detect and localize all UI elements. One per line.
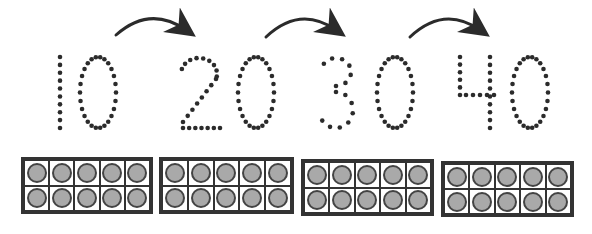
ten-frame-cell xyxy=(495,164,520,189)
counter-circle-icon xyxy=(472,167,492,187)
ten-frame-cell xyxy=(304,188,329,214)
counter-circle-icon xyxy=(242,163,262,183)
ten-frame-20 xyxy=(159,157,294,214)
ten-frame-cell xyxy=(495,189,520,214)
ten-frame-cell xyxy=(188,186,214,212)
ten-frame-10 xyxy=(21,157,153,214)
counter-circle-icon xyxy=(523,167,543,187)
ten-frame-cell xyxy=(125,186,150,212)
counter-circle-icon xyxy=(307,165,327,185)
counter-circle-icon xyxy=(548,167,568,187)
ten-frame-cell xyxy=(355,188,380,214)
ten-frame-30 xyxy=(301,159,434,216)
ten-frame-cell xyxy=(100,186,125,212)
counter-circle-icon xyxy=(357,165,377,185)
counter-circle-icon xyxy=(127,188,147,208)
ten-frame-cell xyxy=(74,160,99,186)
ten-frame-cell xyxy=(380,162,405,188)
ten-frame-cell xyxy=(444,164,469,189)
ten-frame-cell xyxy=(49,186,74,212)
counter-circle-icon xyxy=(191,188,211,208)
ten-frame-cell xyxy=(406,162,431,188)
ten-frame-cell xyxy=(546,164,571,189)
ten-frame-cell xyxy=(406,188,431,214)
counter-circle-icon xyxy=(165,188,185,208)
arrow-30-to-40 xyxy=(410,19,480,37)
ten-frame-cell xyxy=(125,160,150,186)
counter-circle-icon xyxy=(332,165,352,185)
counter-circle-icon xyxy=(307,190,327,210)
ten-frame-cell xyxy=(304,162,329,188)
ten-frame-cell xyxy=(520,164,545,189)
arrow-20-to-30 xyxy=(266,19,336,37)
ten-frame-cell xyxy=(546,189,571,214)
ten-frame-cell xyxy=(469,164,494,189)
ten-frame-cell xyxy=(469,189,494,214)
counter-circle-icon xyxy=(52,188,72,208)
counter-circle-icon xyxy=(27,188,47,208)
ten-frame-40 xyxy=(441,161,574,217)
counter-circle-icon xyxy=(216,188,236,208)
skip-arrows xyxy=(116,19,480,37)
counter-circle-icon xyxy=(102,188,122,208)
counter-circle-icon xyxy=(408,190,428,210)
counter-circle-icon xyxy=(447,167,467,187)
counter-circle-icon xyxy=(523,192,543,212)
ten-frame-cell xyxy=(329,188,354,214)
ten-frame-cell xyxy=(520,189,545,214)
counter-circle-icon xyxy=(127,163,147,183)
counter-circle-icon xyxy=(408,165,428,185)
counter-circle-icon xyxy=(191,163,211,183)
dotted-numbers xyxy=(58,55,551,131)
ten-frame-cell xyxy=(162,160,188,186)
ten-frame-cell xyxy=(355,162,380,188)
counter-circle-icon xyxy=(242,188,262,208)
ten-frame-cell xyxy=(74,186,99,212)
counter-circle-icon xyxy=(357,190,377,210)
counter-circle-icon xyxy=(77,188,97,208)
counter-circle-icon xyxy=(383,190,403,210)
counter-circle-icon xyxy=(497,167,517,187)
counter-circle-icon xyxy=(447,192,467,212)
counter-circle-icon xyxy=(268,163,288,183)
counter-circle-icon xyxy=(77,163,97,183)
counter-circle-icon xyxy=(472,192,492,212)
ten-frame-cell xyxy=(100,160,125,186)
ten-frame-cell xyxy=(239,160,265,186)
ten-frame-cell xyxy=(49,160,74,186)
ten-frame-cell xyxy=(214,186,240,212)
counter-circle-icon xyxy=(165,163,185,183)
ten-frame-cell xyxy=(24,186,49,212)
ten-frame-cell xyxy=(188,160,214,186)
arrow-10-to-20 xyxy=(116,19,186,35)
counter-circle-icon xyxy=(268,188,288,208)
ten-frame-cell xyxy=(24,160,49,186)
counter-circle-icon xyxy=(27,163,47,183)
ten-frame-cell xyxy=(265,160,291,186)
counter-circle-icon xyxy=(102,163,122,183)
ten-frame-cell xyxy=(380,188,405,214)
counter-circle-icon xyxy=(216,163,236,183)
ten-frame-cell xyxy=(239,186,265,212)
ten-frame-cell xyxy=(214,160,240,186)
counter-circle-icon xyxy=(383,165,403,185)
counter-circle-icon xyxy=(548,192,568,212)
ten-frame-cell xyxy=(162,186,188,212)
counter-circle-icon xyxy=(52,163,72,183)
ten-frame-cell xyxy=(329,162,354,188)
counter-circle-icon xyxy=(497,192,517,212)
ten-frame-cell xyxy=(265,186,291,212)
ten-frame-cell xyxy=(444,189,469,214)
counter-circle-icon xyxy=(332,190,352,210)
